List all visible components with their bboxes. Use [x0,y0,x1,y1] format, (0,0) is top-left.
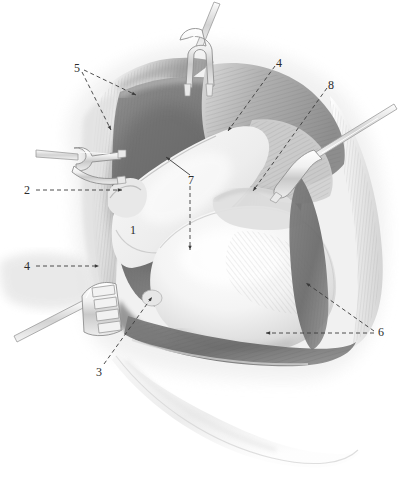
nodule-inferior-capsule [142,290,162,306]
surgical-illustration-figure: 123445678 [0,0,399,490]
retractor-left-prong-lower [117,176,126,184]
retractor-top-prong-right [206,84,213,96]
retractor-top-prong-left [184,84,191,96]
anatomical-artwork [0,0,399,490]
retractor-left-prong-upper [118,150,126,158]
